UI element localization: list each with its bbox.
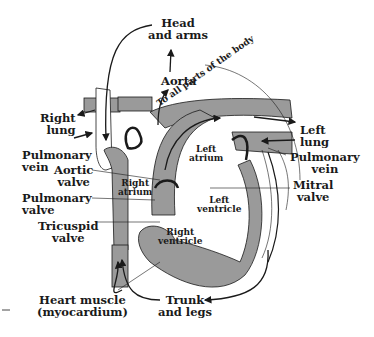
label-atrium: atrium [189,154,223,163]
label-ventricle: ventricle [158,237,202,246]
label-left-atrium: Left atrium [189,145,223,163]
label-and-arms: and arms [148,30,208,42]
label-valve: valve [293,192,333,204]
label-left-ventricle: Left ventricle [197,196,241,214]
flow-head-down [106,25,152,140]
label-right-ventricle: Right ventricle [158,228,202,246]
heart-diagram: Head and arms Aorta To all parts of the … [0,0,374,337]
body-arc-4 [278,150,288,210]
label-left-lung: Left lung [300,125,329,148]
inferior-vena-cava [112,245,128,287]
label-tricuspid-valve: Tricuspid valve [38,221,98,244]
label-lung: lung [40,125,76,137]
flow-to-head [170,50,171,72]
pulmonary-artery [150,99,292,129]
label-lung: lung [300,137,329,149]
label-vein: vein [290,164,360,176]
label-heart-muscle: Heart muscle (myocardium) [37,295,128,318]
flow-right-lung-2 [74,133,92,138]
label-head-arms: Head and arms [148,18,208,41]
label-valve: valve [54,177,93,189]
label-right-atrium: Right atrium [118,179,152,197]
body-arc-3 [262,150,272,258]
label-trunk-legs: Trunk and legs [158,295,212,318]
label-pulmonary-vein-right: Pulmonary vein [290,152,360,175]
label-myocardium: (myocardium) [37,307,128,319]
label-right-lung: Right lung [40,113,76,136]
right-pulmonary-artery-2 [118,97,152,111]
body-arc-2 [268,152,279,262]
label-and-legs: and legs [158,307,212,319]
label-aortic-valve: Aortic valve [54,165,93,188]
atrium-loop-left [126,128,142,149]
label-atrium: atrium [118,188,152,197]
label-valve: valve [22,205,92,217]
label-valve: valve [38,233,98,245]
label-pulmonary-valve: Pulmonary valve [22,193,92,216]
label-mitral-valve: Mitral valve [293,180,333,203]
label-ventricle: ventricle [197,205,241,214]
